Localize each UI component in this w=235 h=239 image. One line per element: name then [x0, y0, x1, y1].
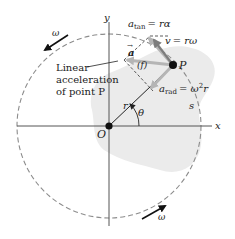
omega-label-top: ω: [52, 28, 60, 38]
y-axis-label: y: [103, 12, 110, 23]
x-axis-label: x: [215, 120, 221, 131]
point-p: [169, 61, 177, 69]
svg-text:Linear: Linear: [56, 62, 89, 73]
rotation-diagram: x y P O r θ s atan= rα v= rω arad= ω2r a…: [0, 0, 235, 239]
omega-label-bottom: ω: [158, 212, 166, 222]
a-total-arrow: →: [127, 42, 133, 50]
point-p-label: P: [178, 59, 187, 72]
svg-text:of point P: of point P: [56, 86, 105, 97]
a-tan-label: atan= rα: [128, 18, 171, 31]
svg-text:acceleration: acceleration: [56, 74, 119, 85]
angle-label: θ: [138, 107, 144, 118]
velocity-label: v= rω: [165, 35, 197, 46]
arc-label: s: [189, 100, 194, 111]
origin-point: [105, 122, 112, 129]
a-total-magnitude: (f): [137, 60, 148, 70]
origin-label: O: [97, 128, 106, 141]
